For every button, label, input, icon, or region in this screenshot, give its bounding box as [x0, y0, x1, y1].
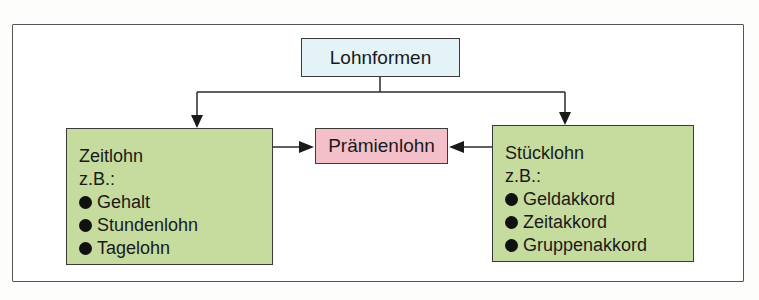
arrow-down-left-icon [191, 115, 203, 128]
list-item: Stundenlohn [79, 214, 272, 237]
root-node-lohnformen: Lohnformen [301, 38, 460, 77]
list-item-label: Gehalt [97, 192, 150, 212]
arrow-left-icon [449, 141, 464, 153]
bullet-icon [505, 239, 518, 252]
right-node-stuecklohn: Stücklohn z.B.: Geldakkord Zeitakkord Gr… [492, 125, 694, 262]
arrow-down-right-icon [559, 112, 571, 125]
center-node-label: Prämienlohn [328, 135, 435, 157]
right-node-subtitle: z.B.: [505, 165, 693, 188]
list-item-label: Gruppenakkord [523, 235, 647, 255]
right-node-title: Stücklohn [505, 142, 693, 165]
center-node-praemienlohn: Prämienlohn [315, 128, 448, 164]
list-item: Gruppenakkord [505, 234, 693, 257]
bullet-icon [79, 242, 92, 255]
bullet-icon [79, 196, 92, 209]
left-node-title: Zeitlohn [79, 145, 272, 168]
list-item: Geldakkord [505, 188, 693, 211]
left-node-zeitlohn: Zeitlohn z.B.: Gehalt Stundenlohn Tagelo… [66, 128, 273, 265]
bullet-icon [79, 219, 92, 232]
list-item: Zeitakkord [505, 211, 693, 234]
left-node-subtitle: z.B.: [79, 168, 272, 191]
list-item: Tagelohn [79, 237, 272, 260]
bullet-icon [505, 193, 518, 206]
list-item: Gehalt [79, 191, 272, 214]
list-item-label: Geldakkord [523, 189, 615, 209]
root-node-label: Lohnformen [330, 47, 431, 69]
arrow-right-icon [299, 141, 314, 153]
list-item-label: Zeitakkord [523, 212, 607, 232]
bullet-icon [505, 216, 518, 229]
list-item-label: Stundenlohn [97, 215, 198, 235]
list-item-label: Tagelohn [97, 238, 170, 258]
